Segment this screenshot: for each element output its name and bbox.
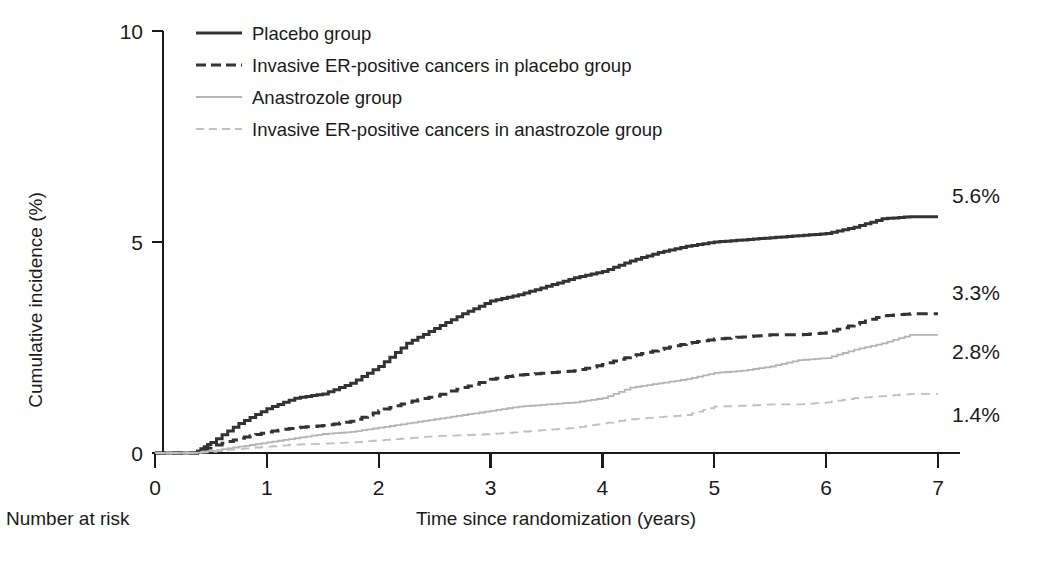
chart-canvas: Cumulative incidence (%) 0510 01234567 T… (0, 0, 1042, 570)
x-tick-label: 3 (485, 476, 497, 499)
legend-label-0: Placebo group (252, 23, 371, 44)
legend-label-1: Invasive ER-positive cancers in placebo … (252, 55, 631, 76)
x-tick-label: 1 (261, 476, 273, 499)
curve-series-1 (155, 314, 938, 453)
y-axis-ticks: 0510 (120, 20, 163, 465)
y-tick-label: 10 (120, 20, 143, 43)
endpoint-label-2: 2.8% (952, 340, 1000, 363)
curve-series-2 (155, 335, 938, 453)
cumulative-incidence-figure: Cumulative incidence (%) 0510 01234567 T… (0, 0, 1042, 570)
y-tick-label: 0 (131, 442, 143, 465)
number-at-risk-title: Number at risk (6, 508, 130, 529)
legend-label-3: Invasive ER-positive cancers in anastroz… (252, 119, 662, 140)
endpoint-label-1: 3.3% (952, 281, 1000, 304)
x-tick-label: 0 (149, 476, 161, 499)
y-axis: 0510 (120, 20, 163, 465)
y-tick-label: 5 (131, 231, 143, 254)
x-axis-title: Time since randomization (years) (416, 508, 696, 529)
x-tick-label: 5 (708, 476, 720, 499)
y-axis-title: Cumulative incidence (%) (25, 192, 46, 407)
endpoint-label-0: 5.6% (952, 184, 1000, 207)
curve-series-3 (155, 394, 938, 453)
endpoint-label-group: 5.6%3.3%2.8%1.4% (952, 184, 1000, 426)
x-axis: 01234567 (149, 453, 960, 499)
legend: Placebo groupInvasive ER-positive cancer… (196, 23, 662, 140)
curve-group (155, 217, 938, 453)
x-tick-label: 7 (932, 476, 944, 499)
x-tick-label: 6 (820, 476, 832, 499)
x-axis-ticks: 01234567 (149, 453, 944, 499)
endpoint-label-3: 1.4% (952, 403, 1000, 426)
legend-label-2: Anastrozole group (252, 87, 402, 108)
x-tick-label: 2 (373, 476, 385, 499)
x-tick-label: 4 (597, 476, 609, 499)
